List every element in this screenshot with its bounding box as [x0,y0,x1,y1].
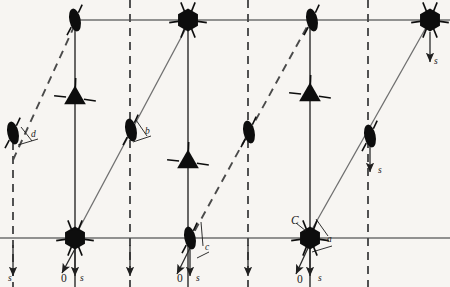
label-s-2: s [80,273,84,283]
label-s-1: s [8,273,12,283]
label-s-6: s [434,56,438,66]
label-s-5: s [378,165,382,175]
label-zero-3: 0 [297,273,303,285]
label-d: d [31,129,36,139]
diagram-svg: dbcaCssssss000 [0,0,450,287]
label-b: b [145,126,150,136]
label-s-3: s [196,273,200,283]
label-zero-2: 0 [177,272,183,284]
label-a: a [327,234,332,244]
label-C: C [291,214,299,226]
symmetry-diagram-canvas: dbcaCssssss000 [0,0,450,287]
label-s-4: s [318,273,322,283]
label-zero-1: 0 [61,272,67,284]
